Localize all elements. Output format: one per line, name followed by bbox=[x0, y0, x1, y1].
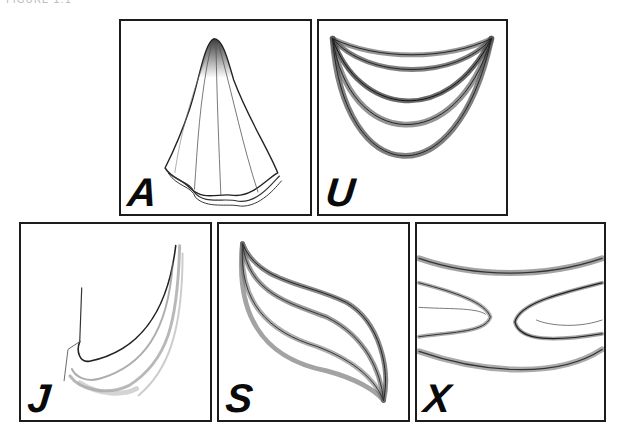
fold-panel-x: X bbox=[415, 222, 606, 422]
panel-label-s: S bbox=[224, 378, 255, 418]
panel-label-u: U bbox=[324, 172, 357, 212]
cropped-header-text: FIGURE 1.1 bbox=[6, 0, 72, 5]
panel-label-j: J bbox=[26, 378, 52, 418]
fold-panel-a: A bbox=[119, 19, 312, 216]
panel-label-x: X bbox=[422, 378, 453, 418]
fold-panel-u: U bbox=[317, 19, 508, 216]
fold-panel-s: S bbox=[217, 222, 410, 422]
fold-panel-j: J bbox=[19, 222, 212, 422]
panel-label-a: A bbox=[126, 172, 159, 212]
